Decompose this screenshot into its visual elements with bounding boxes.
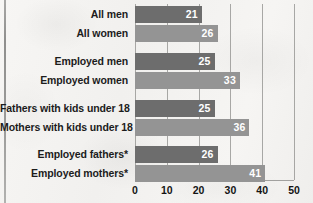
- bar-track: 26: [135, 25, 294, 42]
- bar: 26: [135, 25, 218, 42]
- x-tick-label: 20: [186, 184, 212, 196]
- bar-row-label: Employed fathers*: [0, 146, 128, 163]
- bar-track: 36: [135, 119, 294, 136]
- bar-value-label: 21: [186, 6, 198, 23]
- bar-value-label: 41: [249, 165, 261, 182]
- bar: 25: [135, 100, 215, 117]
- bar: 41: [135, 165, 265, 182]
- x-tick-label: 30: [217, 184, 243, 196]
- bar-track: 41: [135, 165, 294, 182]
- x-tick-label: 40: [249, 184, 275, 196]
- bar-row: Fathers with kids under 1825: [0, 100, 313, 117]
- bar-track: 26: [135, 146, 294, 163]
- bar-row-label: Employed mothers*: [0, 165, 128, 182]
- bar-row: Employed fathers*26: [0, 146, 313, 163]
- bar: 36: [135, 119, 249, 136]
- bar-row: Mothers with kids under 1836: [0, 119, 313, 136]
- chart-page: All men21All women26Employed men25Employ…: [0, 0, 313, 203]
- bar-track: 33: [135, 72, 294, 89]
- bar-row: Employed women33: [0, 72, 313, 89]
- bar-chart-plot: All men21All women26Employed men25Employ…: [0, 0, 313, 203]
- bar-track: 21: [135, 6, 294, 23]
- bar-value-label: 26: [202, 146, 214, 163]
- bar: 26: [135, 146, 218, 163]
- bar-value-label: 25: [198, 100, 210, 117]
- bar-row-label: Mothers with kids under 18: [0, 119, 128, 136]
- bar-value-label: 25: [198, 53, 210, 70]
- bar-value-label: 36: [233, 119, 245, 136]
- bar-row: All men21: [0, 6, 313, 23]
- bar: 21: [135, 6, 202, 23]
- bar-row: All women26: [0, 25, 313, 42]
- bar-row-label: Fathers with kids under 18: [0, 100, 128, 117]
- x-tick-label: 10: [154, 184, 180, 196]
- bar-value-label: 33: [224, 72, 236, 89]
- bar-row-label: All men: [0, 6, 128, 23]
- bar-row-label: Employed men: [0, 53, 128, 70]
- bar-track: 25: [135, 53, 294, 70]
- bar-row-label: Employed women: [0, 72, 128, 89]
- bar: 25: [135, 53, 215, 70]
- bar-value-label: 26: [202, 25, 214, 42]
- x-tick-label: 0: [122, 184, 148, 196]
- bar: 33: [135, 72, 240, 89]
- bar-row: Employed men25: [0, 53, 313, 70]
- bar-track: 25: [135, 100, 294, 117]
- bar-row-label: All women: [0, 25, 128, 42]
- x-tick-label: 50: [281, 184, 307, 196]
- bar-row: Employed mothers*41: [0, 165, 313, 182]
